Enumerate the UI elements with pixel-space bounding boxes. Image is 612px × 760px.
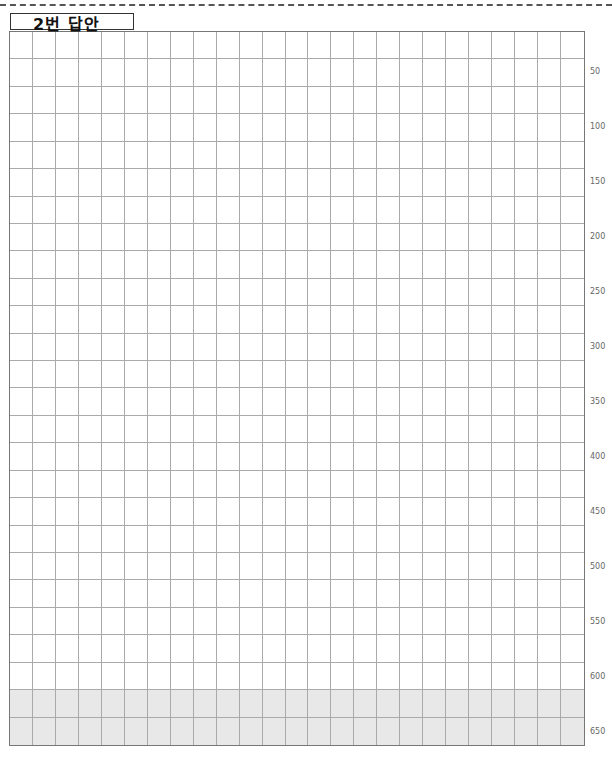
grid-cell[interactable]	[286, 608, 309, 635]
grid-cell[interactable]	[469, 690, 492, 717]
grid-cell[interactable]	[377, 635, 400, 662]
grid-cell[interactable]	[446, 388, 469, 415]
grid-cell[interactable]	[423, 334, 446, 361]
grid-cell[interactable]	[102, 526, 125, 553]
grid-cell[interactable]	[354, 635, 377, 662]
grid-cell[interactable]	[561, 59, 584, 86]
grid-cell[interactable]	[423, 32, 446, 59]
grid-cell[interactable]	[56, 498, 79, 525]
grid-cell[interactable]	[148, 169, 171, 196]
grid-cell[interactable]	[171, 169, 194, 196]
grid-cell[interactable]	[148, 279, 171, 306]
grid-cell[interactable]	[125, 32, 148, 59]
grid-cell[interactable]	[492, 635, 515, 662]
grid-cell[interactable]	[148, 361, 171, 388]
grid-cell[interactable]	[240, 334, 263, 361]
grid-cell[interactable]	[263, 361, 286, 388]
grid-cell[interactable]	[194, 608, 217, 635]
grid-cell[interactable]	[286, 361, 309, 388]
grid-cell[interactable]	[492, 690, 515, 717]
grid-cell[interactable]	[354, 197, 377, 224]
grid-cell[interactable]	[102, 553, 125, 580]
grid-cell[interactable]	[308, 388, 331, 415]
grid-cell[interactable]	[561, 443, 584, 470]
grid-cell[interactable]	[446, 416, 469, 443]
grid-cell[interactable]	[217, 32, 240, 59]
grid-cell[interactable]	[446, 169, 469, 196]
grid-cell[interactable]	[194, 224, 217, 251]
grid-cell[interactable]	[33, 59, 56, 86]
grid-cell[interactable]	[492, 251, 515, 278]
grid-cell[interactable]	[10, 608, 33, 635]
grid-cell[interactable]	[469, 663, 492, 690]
grid-cell[interactable]	[469, 580, 492, 607]
grid-cell[interactable]	[377, 32, 400, 59]
grid-cell[interactable]	[446, 224, 469, 251]
grid-cell[interactable]	[171, 608, 194, 635]
grid-cell[interactable]	[148, 663, 171, 690]
grid-cell[interactable]	[286, 526, 309, 553]
grid-cell[interactable]	[515, 197, 538, 224]
grid-cell[interactable]	[492, 32, 515, 59]
grid-cell[interactable]	[377, 526, 400, 553]
grid-cell[interactable]	[561, 114, 584, 141]
grid-cell[interactable]	[56, 251, 79, 278]
grid-cell[interactable]	[469, 498, 492, 525]
grid-cell[interactable]	[240, 718, 263, 745]
grid-cell[interactable]	[263, 443, 286, 470]
grid-cell[interactable]	[171, 553, 194, 580]
grid-cell[interactable]	[125, 279, 148, 306]
grid-cell[interactable]	[56, 526, 79, 553]
grid-cell[interactable]	[561, 718, 584, 745]
manuscript-grid[interactable]	[9, 31, 585, 746]
grid-cell[interactable]	[125, 690, 148, 717]
grid-cell[interactable]	[538, 361, 561, 388]
grid-cell[interactable]	[561, 635, 584, 662]
grid-cell[interactable]	[10, 32, 33, 59]
grid-cell[interactable]	[240, 306, 263, 333]
grid-cell[interactable]	[446, 361, 469, 388]
grid-cell[interactable]	[125, 142, 148, 169]
grid-cell[interactable]	[423, 443, 446, 470]
grid-cell[interactable]	[515, 690, 538, 717]
grid-cell[interactable]	[171, 114, 194, 141]
grid-cell[interactable]	[125, 553, 148, 580]
grid-cell[interactable]	[171, 32, 194, 59]
grid-cell[interactable]	[79, 690, 102, 717]
grid-cell[interactable]	[79, 416, 102, 443]
grid-cell[interactable]	[423, 471, 446, 498]
grid-cell[interactable]	[263, 334, 286, 361]
grid-cell[interactable]	[515, 388, 538, 415]
grid-cell[interactable]	[10, 416, 33, 443]
grid-cell[interactable]	[423, 553, 446, 580]
grid-cell[interactable]	[331, 553, 354, 580]
grid-cell[interactable]	[446, 580, 469, 607]
grid-cell[interactable]	[400, 197, 423, 224]
grid-cell[interactable]	[469, 306, 492, 333]
grid-cell[interactable]	[148, 690, 171, 717]
grid-cell[interactable]	[354, 87, 377, 114]
grid-cell[interactable]	[263, 526, 286, 553]
grid-cell[interactable]	[33, 690, 56, 717]
grid-cell[interactable]	[171, 471, 194, 498]
grid-cell[interactable]	[515, 580, 538, 607]
grid-cell[interactable]	[102, 279, 125, 306]
grid-cell[interactable]	[125, 498, 148, 525]
grid-cell[interactable]	[286, 224, 309, 251]
grid-cell[interactable]	[102, 197, 125, 224]
grid-cell[interactable]	[125, 197, 148, 224]
grid-cell[interactable]	[561, 526, 584, 553]
grid-cell[interactable]	[377, 279, 400, 306]
grid-cell[interactable]	[194, 580, 217, 607]
grid-cell[interactable]	[492, 224, 515, 251]
grid-cell[interactable]	[308, 498, 331, 525]
grid-cell[interactable]	[331, 635, 354, 662]
grid-cell[interactable]	[33, 635, 56, 662]
grid-cell[interactable]	[171, 142, 194, 169]
grid-cell[interactable]	[561, 251, 584, 278]
grid-cell[interactable]	[148, 142, 171, 169]
grid-cell[interactable]	[354, 224, 377, 251]
grid-cell[interactable]	[79, 388, 102, 415]
grid-cell[interactable]	[515, 142, 538, 169]
grid-cell[interactable]	[102, 32, 125, 59]
